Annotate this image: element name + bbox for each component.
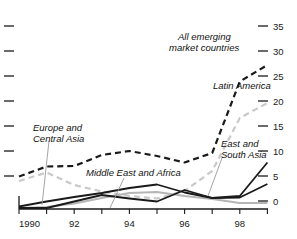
annotation-all-emerging-line2: market countries (169, 42, 239, 53)
y-tick-label-35: 35 (273, 21, 284, 32)
y-tick-label-30: 30 (273, 46, 284, 57)
y-tick-label-10: 10 (273, 146, 284, 157)
y-tick-label-0: 0 (273, 196, 278, 207)
x-tick-label-98: 98 (235, 218, 246, 229)
annotation-east-asia-line1: East and (221, 138, 259, 149)
annotation-all-emerging-line1: All emerging (177, 31, 232, 42)
annotation-middle-east-africa: Middle East and Africa (86, 167, 181, 178)
x-tick-label-1990: 1990 (19, 218, 40, 229)
annotation-europe-line2: Central Asia (33, 133, 84, 144)
x-tick-label-96: 96 (179, 218, 190, 229)
annotation-europe-line1: Europe and (33, 122, 83, 133)
annotation-europe-central-asia: Europe and Central Asia (33, 122, 84, 144)
x-tick-label-94: 94 (124, 218, 135, 229)
annotation-all-emerging: All emerging market countries (169, 31, 239, 53)
y-tick-label-5: 5 (273, 171, 278, 182)
annotation-east-asia-line2: South Asia (221, 149, 267, 160)
x-tick-label-92: 92 (69, 218, 80, 229)
y-tick-label-15: 15 (273, 121, 284, 132)
y-tick-label-25: 25 (273, 71, 284, 82)
chart-container: 35 30 25 20 15 10 5 0 1990 92 (0, 0, 297, 239)
y-tick-label-20: 20 (273, 96, 284, 107)
annotation-latin-america: Latin America (213, 80, 271, 91)
line-chart: 35 30 25 20 15 10 5 0 1990 92 (0, 0, 297, 239)
